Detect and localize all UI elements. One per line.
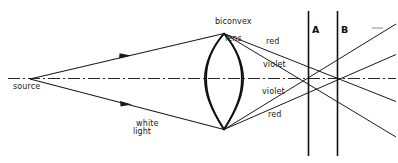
biconvex-lens-label: biconvex lens	[198, 9, 258, 52]
white-light-label: whitelight	[122, 111, 162, 145]
lower-red-refracted-ray	[224, 55, 396, 130]
screen-a-label: A	[312, 26, 319, 35]
screen-b-label: B	[341, 26, 348, 35]
white-light-line1: whitelight	[133, 119, 159, 137]
lens-label-line1: biconvex	[215, 17, 252, 26]
source-label: source	[13, 83, 40, 92]
upper-ray-arrowhead	[119, 53, 131, 58]
violet-upper-label: violet	[263, 61, 286, 70]
lower-ray-arrowhead	[120, 101, 132, 107]
optics-dispersion-diagram: source whitelight biconvex lens red viol…	[0, 0, 398, 163]
red-lower-label: red	[268, 111, 281, 120]
red-upper-label: red	[266, 38, 279, 47]
violet-lower-label: violet	[262, 88, 285, 97]
lens-label-line2: lens	[225, 34, 242, 43]
